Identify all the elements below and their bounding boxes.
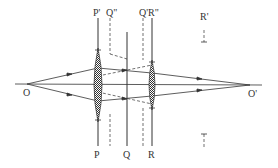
- lens-2: [149, 60, 155, 110]
- label-P-prime: P': [93, 7, 101, 18]
- optical-axis: [15, 84, 262, 85]
- dashed-planes: [110, 18, 204, 148]
- label-O: O: [23, 87, 30, 98]
- optics-diagram: O O' P' Q" Q' R" R' P Q R: [0, 0, 278, 168]
- label-R-double-prime: R": [148, 7, 159, 18]
- lens-1: [94, 48, 102, 122]
- label-Q-prime: Q': [139, 7, 148, 18]
- label-P: P: [94, 149, 100, 160]
- label-R-prime: R': [200, 11, 209, 22]
- label-Q: Q: [123, 149, 131, 160]
- label-O-prime: O': [248, 88, 257, 99]
- label-Q-double-prime: Q": [106, 7, 117, 18]
- label-R: R: [148, 149, 155, 160]
